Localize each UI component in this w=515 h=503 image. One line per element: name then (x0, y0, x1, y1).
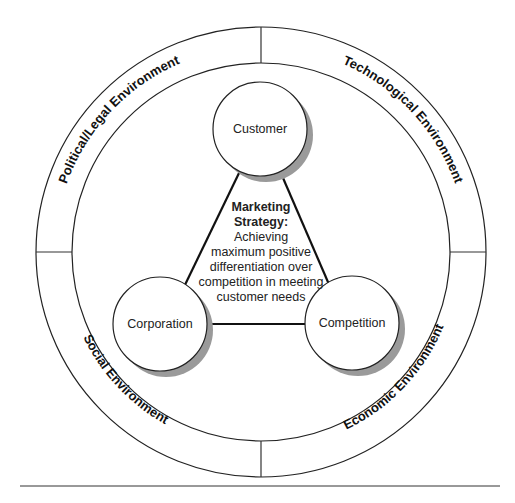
node-label-customer: Customer (233, 122, 287, 136)
env-label-technological: Technological Environment (341, 53, 467, 186)
center-body-line-1: Achieving (234, 230, 288, 244)
node-label-competition: Competition (319, 316, 386, 330)
node-label-corporation: Corporation (127, 317, 192, 331)
center-body-line-5: customer needs (217, 290, 306, 304)
center-strategy-text: Marketing Strategy: Achieving maximum po… (198, 200, 323, 304)
center-body-line-4: competition in meeting (198, 275, 323, 289)
center-title-line-2: Strategy: (234, 215, 288, 229)
node-corporation: Corporation (113, 277, 207, 371)
node-competition: Competition (305, 276, 399, 370)
center-body-line-3: differentiation over (210, 260, 313, 274)
center-title-line-1: Marketing (231, 200, 290, 214)
env-label-political: Political/Legal Environment (55, 52, 182, 185)
node-customer: Customer (213, 82, 307, 176)
center-body-line-2: maximum positive (211, 245, 311, 259)
marketing-strategy-diagram: Political/Legal Environment Technologica… (0, 0, 515, 503)
